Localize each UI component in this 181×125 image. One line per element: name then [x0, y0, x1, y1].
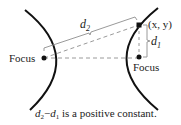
d2-label: d2 [80, 17, 90, 33]
curve-point [137, 23, 142, 28]
right-focus-label: Focus [133, 61, 159, 73]
hyperbola-diagram: Focus Focus (x, y) d2 d1 d2−d1 is a posi… [0, 0, 181, 125]
left-focus-point [42, 56, 47, 61]
left-focus-label: Focus [9, 52, 35, 64]
d2-bracket [44, 17, 137, 51]
d1-label: d1 [151, 34, 161, 50]
right-focus-point [137, 55, 142, 60]
d2-dashed-line [44, 25, 139, 58]
point-label: (x, y) [148, 18, 172, 31]
caption: d2−d1 is a positive constant. [35, 107, 157, 121]
